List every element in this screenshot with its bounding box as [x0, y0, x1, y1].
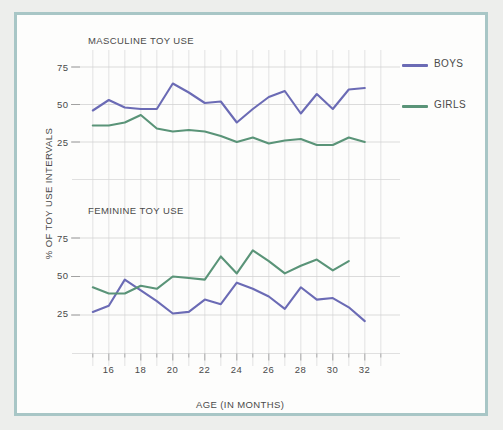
y-axis-label: % OF TOY USE INTERVALS	[43, 124, 54, 264]
x-tick-label-30: 30	[327, 364, 338, 375]
x-tick-label-32: 32	[359, 364, 370, 375]
legend-swatch-boys	[402, 64, 428, 67]
x-tick-label-18: 18	[135, 364, 146, 375]
x-tick-label-20: 20	[167, 364, 178, 375]
panel-title-masculine: MASCULINE TOY USE	[88, 35, 194, 46]
series-line-girls-masculine	[93, 115, 365, 145]
y-tick-label-top-75: 75	[57, 62, 68, 73]
y-tick-label-bottom-50: 50	[57, 270, 68, 281]
figure-background: MASCULINE TOY USE FEMININE TOY USE % OF …	[0, 0, 503, 430]
data-series-layer	[93, 84, 365, 322]
y-tick-label-top-25: 25	[57, 137, 68, 148]
y-tick-label-top-50: 50	[57, 99, 68, 110]
x-tick-label-24: 24	[231, 364, 242, 375]
legend-label-boys: BOYS	[434, 58, 463, 69]
x-axis-label: AGE (IN MONTHS)	[196, 399, 284, 410]
legend-swatch-girls	[402, 105, 428, 108]
series-line-boys-masculine	[93, 84, 365, 123]
legend-label-girls: GIRLS	[434, 99, 466, 110]
x-tick-label-16: 16	[103, 364, 114, 375]
panel-title-feminine: FEMININE TOY USE	[88, 205, 184, 216]
x-tick-label-26: 26	[263, 364, 274, 375]
x-tick-label-28: 28	[295, 364, 306, 375]
x-tick-label-22: 22	[199, 364, 210, 375]
y-tick-label-bottom-25: 25	[57, 308, 68, 319]
y-tick-label-bottom-75: 75	[57, 233, 68, 244]
